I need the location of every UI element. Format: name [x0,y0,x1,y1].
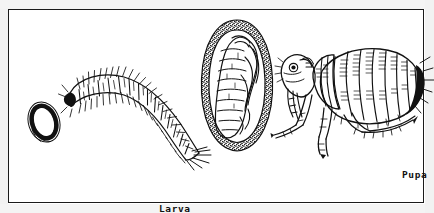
page-margin-bottom [0,204,434,213]
figure-plate: Egg [8,9,424,203]
larva-ventral-bristles [79,93,185,164]
flea-body-outline [320,49,421,124]
flea-midleg [318,108,332,159]
page-margin-top [0,0,434,9]
flea-thorax [313,55,339,109]
stage-label-pupa: Pupa [402,170,427,180]
larva-dorsal-bristles [77,67,193,150]
flea-foreleg [271,95,313,138]
flea-hindleg [344,113,418,138]
pupa-cocoon-inner-edge [209,30,265,143]
figure-root: Egg [0,0,434,213]
adult-flea-illustration [270,29,434,164]
stage-label-larva: Larva [159,204,191,213]
flea-posterior-bristles [406,57,434,115]
flea-abdomen-hatching [340,53,415,100]
page-margin-left [0,0,8,213]
stage-adult: Adult [270,29,430,159]
